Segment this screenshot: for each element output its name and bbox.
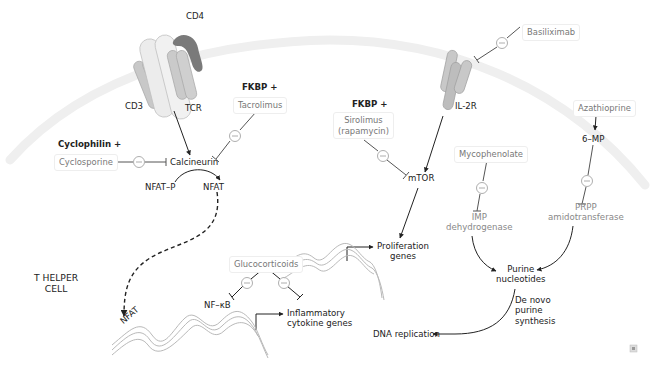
fkbp-label-1: FKBP + [242, 82, 278, 92]
mycophenolate-box: Mycophenolate [454, 146, 528, 163]
six-mp-label: 6–MP [582, 134, 604, 144]
glucocorticoids-box: Glucocorticoids [229, 256, 303, 273]
nfat-label: NFAT [203, 182, 224, 192]
basiliximab-box: Basiliximab [522, 24, 580, 41]
il2r-label: IL-2R [455, 101, 477, 111]
cd4-label: CD4 [186, 11, 204, 21]
proliferation-genes-label: Proliferation genes [377, 241, 429, 262]
watermark-icon [630, 345, 637, 352]
cell-label: T HELPER CELL [34, 272, 78, 294]
cyclosporine-box: Cyclosporine [54, 154, 118, 171]
inflammatory-cytokine-genes-label: Inflammatory cytokine genes [287, 308, 352, 329]
cd3-label: CD3 [125, 101, 143, 111]
calcineurin-label: Calcineurin [170, 157, 218, 167]
dna-replication-label: DNA replication [373, 329, 440, 339]
tacrolimus-box: Tacrolimus [233, 97, 287, 114]
cyclophilin-label: Cyclophilin + [58, 139, 121, 149]
imp-dehydrogenase-label: IMP dehydrogenase [446, 212, 513, 233]
sirolimus-box: Sirolimus (rapamycin) [333, 112, 394, 139]
fkbp-label-2: FKBP + [352, 99, 388, 109]
nfkb-label: NF–κB [204, 300, 231, 310]
dna-helix-icon [112, 311, 268, 358]
mtor-label: mTOR [408, 173, 434, 183]
prpp-amidotransferase-label: PRPP amidotransferase [548, 202, 624, 223]
purine-nucleotides-label: Purine nucleotides [496, 264, 546, 285]
nfat-p-label: NFAT–P [145, 182, 176, 192]
tcr-label: TCR [185, 103, 202, 113]
de-novo-label: De novo purine synthesis [515, 295, 555, 326]
azathioprine-box: Azathioprine [573, 100, 636, 117]
